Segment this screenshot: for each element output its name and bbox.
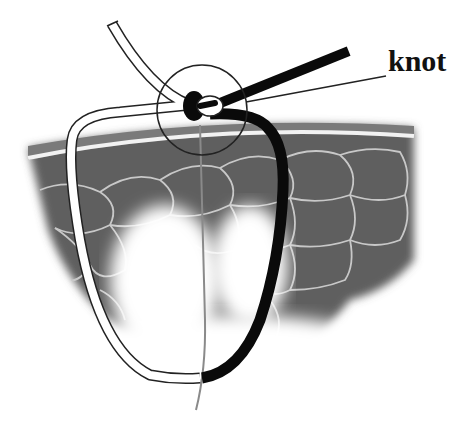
knot-label: knot	[388, 46, 446, 76]
black-suture-tail	[208, 53, 344, 108]
suture-diagram: knot	[0, 0, 471, 426]
